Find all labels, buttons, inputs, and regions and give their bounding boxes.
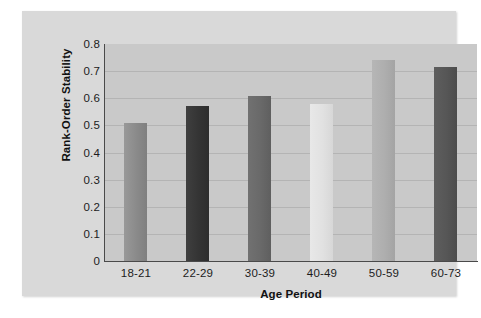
y-axis-title: Rank-Order Stability [60,25,72,185]
bar-22-29 [186,106,209,261]
gridline-0.1 [105,234,477,235]
gridline-0.2 [105,207,477,208]
x-tick-label: 30-39 [229,267,291,279]
bar-50-59 [372,60,395,261]
x-tick-label: 40-49 [291,267,353,279]
x-tick-label: 50-59 [353,267,415,279]
bar-60-73 [434,67,457,261]
figure: 0.8 0.7 0.6 0.5 0.4 0.3 0.2 0.1 0 Rank-O… [0,0,481,318]
gridline-0.3 [105,180,477,181]
y-tick-label: 0.1 [40,228,100,240]
bar-40-49 [310,104,333,261]
plot-area [105,44,477,261]
gridline-0.6 [105,98,477,99]
y-axis-line [104,44,105,262]
y-tick-label: 0 [40,255,100,267]
x-axis-title: Age Period [105,288,477,300]
gridline-0.4 [105,153,477,154]
gridline-0.5 [105,125,477,126]
bar-18-21 [124,123,147,261]
x-tick-label: 18-21 [105,267,167,279]
x-tick-label: 60-73 [415,267,477,279]
x-tick-label: 22-29 [167,267,229,279]
chart-card: 0.8 0.7 0.6 0.5 0.4 0.3 0.2 0.1 0 Rank-O… [22,11,456,296]
x-axis-line [104,261,478,262]
y-tick-label: 0.2 [40,201,100,213]
gridline-0.7 [105,71,477,72]
bar-30-39 [248,96,271,262]
